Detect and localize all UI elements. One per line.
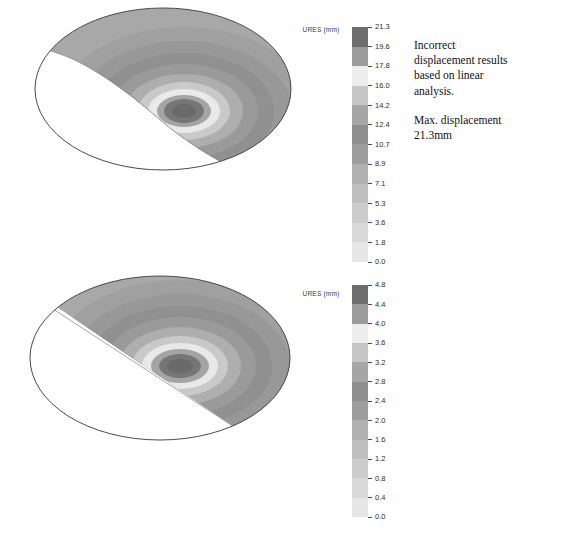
- contour-bands-linear: [8, 0, 298, 268]
- colorbar-band-10: [352, 223, 368, 243]
- annotation-paragraph: Incorrectdisplacement resultsbased on li…: [414, 38, 572, 99]
- tick-mark-icon: [368, 105, 372, 106]
- tick-label: 14.2: [375, 101, 390, 109]
- tick-label: 12.4: [375, 121, 390, 129]
- tick-mark-icon: [368, 183, 372, 184]
- colorbar-band-4: [352, 362, 368, 381]
- colorbar-band-11: [352, 498, 368, 517]
- annotation-line: Max. displacement: [414, 113, 572, 128]
- tick-label: 2.0: [375, 416, 385, 424]
- panel-linear-analysis: URES (mm) 21.319.617.816.014.212.410.78.…: [0, 0, 572, 268]
- tick-label: 4.0: [375, 319, 385, 327]
- contour-plot-nonlinear-svg: [8, 268, 298, 537]
- contour-plot-nonlinear: [8, 268, 298, 536]
- tick-mark-icon: [368, 497, 372, 498]
- tick-mark-icon: [368, 66, 372, 67]
- colorbar-band-0: [352, 285, 368, 304]
- tick-mark-icon: [368, 401, 372, 402]
- tick-label: 0.0: [375, 258, 385, 266]
- colorbar-band-5: [352, 382, 368, 401]
- colorbar-band-6: [352, 144, 368, 164]
- colorbar-band-3: [352, 86, 368, 106]
- tick-mark-icon: [368, 362, 372, 363]
- colorbar-band-11: [352, 242, 368, 262]
- tick-label: 8.9: [375, 160, 385, 168]
- colorbar-band-0: [352, 27, 368, 47]
- tick-mark-icon: [368, 439, 372, 440]
- tick-mark-icon: [368, 381, 372, 382]
- tick-label: 1.6: [375, 435, 385, 443]
- colorbar-ticks-nonlinear: 4.84.44.03.63.22.82.42.01.61.20.80.40.0: [368, 285, 446, 517]
- annotation-linear: Incorrectdisplacement resultsbased on li…: [414, 38, 572, 143]
- tick-label: 0.4: [375, 493, 385, 501]
- tick-mark-icon: [368, 85, 372, 86]
- annotation-line: 21.3mm: [414, 128, 572, 143]
- tick-label: 4.8: [375, 281, 385, 289]
- tick-label: 7.1: [375, 179, 385, 187]
- colorbar-band-2: [352, 324, 368, 343]
- legend-title-nonlinear: URES (mm): [292, 290, 350, 297]
- legend-linear: URES (mm) 21.319.617.816.014.212.410.78.…: [292, 0, 388, 268]
- tick-mark-icon: [368, 203, 372, 204]
- tick-mark-icon: [368, 459, 372, 460]
- panel-nonlinear-analysis: URES (mm) 4.84.44.03.63.22.82.42.01.61.2…: [0, 268, 572, 537]
- annotation-line: displacement results: [414, 53, 572, 68]
- tick-label: 5.3: [375, 199, 385, 207]
- tick-mark-icon: [368, 420, 372, 421]
- tick-label: 19.6: [375, 42, 390, 50]
- tick-mark-icon: [368, 323, 372, 324]
- tick-label: 1.2: [375, 455, 385, 463]
- tick-label: 16.0: [375, 82, 390, 90]
- tick-mark-icon: [368, 222, 372, 223]
- colorbar-band-9: [352, 203, 368, 223]
- legend-title-linear: URES (mm): [292, 26, 350, 33]
- tick-mark-icon: [368, 517, 372, 518]
- colorbar-band-5: [352, 125, 368, 145]
- colorbar-band-8: [352, 184, 368, 204]
- tick-mark-icon: [368, 144, 372, 145]
- colorbar-band-1: [352, 304, 368, 323]
- annotation-line: based on linear: [414, 68, 572, 83]
- colorbar-band-9: [352, 459, 368, 478]
- colorbar-band-10: [352, 478, 368, 497]
- colorbar-band-6: [352, 401, 368, 420]
- colorbar-band-7: [352, 420, 368, 439]
- tick-label: 3.6: [375, 219, 385, 227]
- colorbar-band-2: [352, 66, 368, 86]
- colorbar-bands-nonlinear: [352, 285, 368, 517]
- contour-plot-linear-svg: [8, 0, 298, 268]
- colorbar-band-4: [352, 105, 368, 125]
- legend-nonlinear: URES (mm) 4.84.44.03.63.22.82.42.01.61.2…: [292, 268, 388, 536]
- tick-label: 3.2: [375, 358, 385, 366]
- tick-label: 21.3: [375, 23, 390, 31]
- colorbar-band-7: [352, 164, 368, 184]
- tick-label: 10.7: [375, 140, 390, 148]
- tick-mark-icon: [368, 285, 372, 286]
- tick-label: 2.4: [375, 397, 385, 405]
- tick-label: 2.8: [375, 377, 385, 385]
- tick-mark-icon: [368, 46, 372, 47]
- tick-mark-icon: [368, 478, 372, 479]
- colorbar-bands-linear: [352, 27, 368, 262]
- colorbar-band-8: [352, 440, 368, 459]
- tick-mark-icon: [368, 27, 372, 28]
- tick-label: 3.6: [375, 339, 385, 347]
- tick-mark-icon: [368, 304, 372, 305]
- tick-mark-icon: [368, 242, 372, 243]
- tick-label: 0.8: [375, 474, 385, 482]
- annotation-line: analysis.: [414, 84, 572, 99]
- annotation-paragraph: Max. displacement21.3mm: [414, 113, 572, 143]
- tick-mark-icon: [368, 124, 372, 125]
- tick-label: 1.8: [375, 238, 385, 246]
- colorbar-band-1: [352, 47, 368, 67]
- tick-mark-icon: [368, 262, 372, 263]
- contour-plot-linear: [8, 0, 298, 268]
- tick-label: 4.4: [375, 300, 385, 308]
- tick-label: 17.8: [375, 62, 390, 70]
- annotation-line: Incorrect: [414, 38, 572, 53]
- contour-bands-nonlinear: [8, 268, 298, 537]
- tick-mark-icon: [368, 343, 372, 344]
- tick-mark-icon: [368, 164, 372, 165]
- tick-label: 0.0: [375, 513, 385, 521]
- colorbar-band-3: [352, 343, 368, 362]
